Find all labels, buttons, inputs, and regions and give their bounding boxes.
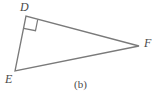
vertex-label-d: D <box>20 1 29 13</box>
vertex-label-f: F <box>144 37 151 49</box>
right-angle-marker-icon <box>24 20 38 31</box>
triangle-outline-path <box>15 16 139 71</box>
geometry-figure: D E F (b) <box>0 0 161 97</box>
figure-caption: (b) <box>0 79 161 90</box>
